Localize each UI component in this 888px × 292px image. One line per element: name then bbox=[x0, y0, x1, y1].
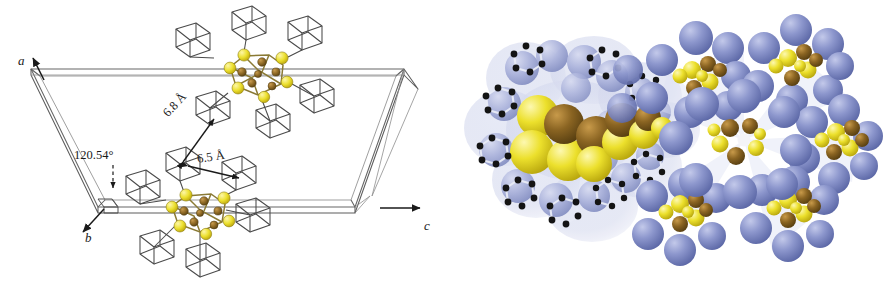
beta-angle-label: 120.54° bbox=[74, 148, 113, 163]
axis-label-c: c bbox=[424, 218, 430, 234]
unit-cell-svg bbox=[0, 0, 444, 292]
distance-6-5-arrow bbox=[188, 166, 239, 178]
copper-atoms-top bbox=[238, 58, 280, 90]
figure-container: a b c 120.54° 6.8 Å 6.5 Å bbox=[0, 0, 888, 292]
axis-label-b: b bbox=[85, 230, 92, 246]
unit-cell-outline bbox=[31, 69, 418, 213]
axis-label-a: a bbox=[18, 53, 25, 69]
cluster-core-top bbox=[176, 6, 334, 138]
axis-arrows bbox=[33, 58, 420, 232]
unit-cell-wireframe-panel: a b c 120.54° 6.8 Å 6.5 Å bbox=[0, 0, 444, 292]
space-filling-packing-panel bbox=[444, 0, 888, 292]
packing-svg bbox=[444, 0, 888, 292]
copper-atoms-bottom bbox=[180, 197, 222, 229]
axis-b-arrow bbox=[83, 209, 104, 232]
